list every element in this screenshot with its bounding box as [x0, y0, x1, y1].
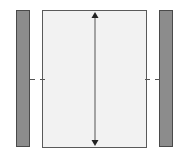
height-dimension-arrow-icon — [0, 0, 185, 157]
